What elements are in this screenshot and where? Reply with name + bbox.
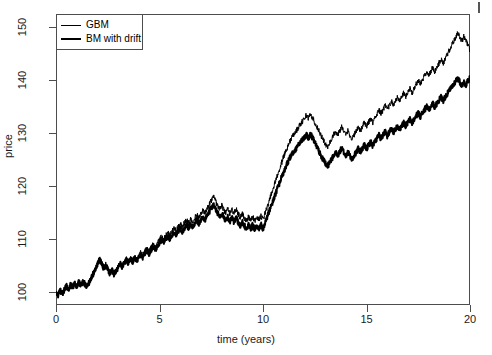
y-axis-title: price (2, 116, 14, 176)
y-tick-label: 110 (0, 233, 44, 245)
legend-entry-bm-with-drift: BM with drift (61, 32, 138, 46)
series-plot (56, 14, 470, 305)
x-tick-label: 0 (36, 313, 76, 325)
y-tick-label: 150 (0, 21, 44, 33)
legend: GBM BM with drift (56, 14, 143, 50)
y-tick-label: 120 (0, 180, 44, 192)
y-tick-label: 100 (0, 286, 44, 298)
x-tick-mark (160, 305, 161, 312)
x-tick-label: 10 (243, 313, 283, 325)
legend-label-gbm: GBM (86, 20, 109, 30)
legend-label-bm-with-drift: BM with drift (86, 34, 141, 44)
legend-line-key-thick-icon (61, 34, 81, 44)
series-line-gbm (56, 32, 470, 297)
y-tick-mark (49, 27, 56, 28)
y-tick-mark (49, 80, 56, 81)
legend-entry-gbm: GBM (61, 18, 138, 32)
x-tick-label: 5 (140, 313, 180, 325)
x-tick-mark (56, 305, 57, 312)
chart-canvas: 100110120130140150 price 05101520 time (… (0, 0, 492, 355)
y-tick-label: 140 (0, 74, 44, 86)
y-tick-mark (49, 239, 56, 240)
y-tick-mark (49, 292, 56, 293)
y-tick-mark (49, 133, 56, 134)
x-axis-title: time (years) (0, 333, 492, 345)
y-tick-mark (49, 186, 56, 187)
series-line-bm-with-drift (56, 76, 470, 297)
legend-line-key-thin-icon (61, 20, 81, 30)
x-tick-mark (367, 305, 368, 312)
corner-artifact-mark (478, 2, 480, 13)
x-tick-mark (470, 305, 471, 312)
x-tick-label: 15 (347, 313, 387, 325)
x-tick-mark (263, 305, 264, 312)
x-tick-label: 20 (450, 313, 490, 325)
